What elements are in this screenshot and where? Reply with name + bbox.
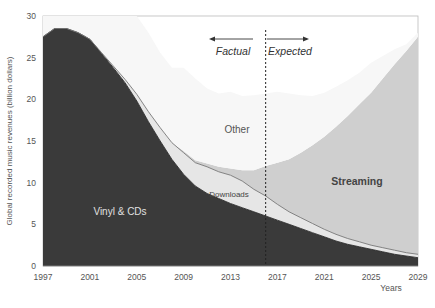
x-tick-label: 2029 [409, 272, 428, 282]
annotation-expected: Expected [268, 45, 313, 57]
label-downloads: Downloads [209, 190, 249, 199]
x-tick-label: 2013 [221, 272, 240, 282]
y-tick-label: 10 [27, 178, 37, 188]
y-axis-ticks: 051015202530 [27, 11, 37, 271]
y-tick-label: 20 [27, 94, 37, 104]
y-tick-label: 5 [31, 219, 36, 229]
y-tick-label: 30 [27, 11, 37, 21]
x-tick-label: 2005 [127, 272, 146, 282]
x-tick-label: 2025 [362, 272, 381, 282]
x-tick-label: 2001 [80, 272, 99, 282]
x-axis-ticks: 199720012005200920132017202120252029 [34, 272, 428, 282]
y-tick-label: 25 [27, 53, 37, 63]
y-tick-label: 0 [31, 261, 36, 271]
y-tick-label: 15 [27, 136, 37, 146]
label-streaming: Streaming [331, 175, 382, 187]
chart-figure: 051015202530 199720012005200920132017202… [0, 0, 435, 308]
x-tick-label: 2021 [315, 272, 334, 282]
label-other: Other [224, 124, 250, 135]
x-tick-label: 2017 [268, 272, 287, 282]
x-tick-label: 1997 [34, 272, 53, 282]
label-vinyl-cds: Vinyl & CDs [93, 206, 146, 217]
x-tick-label: 2009 [174, 272, 193, 282]
annotation-factual: Factual [216, 45, 251, 57]
y-axis-label: Global recorded music revenues (billion … [5, 56, 14, 225]
x-axis-label: Years [380, 283, 401, 293]
